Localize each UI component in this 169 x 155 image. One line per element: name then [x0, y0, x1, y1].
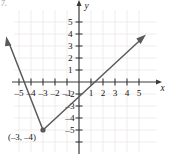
curve-arrowheads: [5, 35, 146, 47]
y-tick-label: –4: [64, 113, 75, 123]
y-tick-labels: 5 4 3 2 1 –2 –3 –4 –5: [64, 17, 75, 135]
x-tick-label: 1: [89, 88, 94, 98]
y-tick-label: –2: [64, 89, 75, 99]
y-axis-label: y: [84, 1, 90, 11]
y-axis-arrow: [77, 0, 82, 6]
coordinate-plane-svg: –5 –4 –3 –2 –1 1 2 3 4 5 5 4 3 2 1 –2 –3…: [0, 0, 169, 155]
x-axis-label: x: [160, 83, 166, 93]
x-tick-label: 2: [101, 88, 106, 98]
x-tick-labels: –5 –4 –3 –2 –1 1 2 3 4 5: [13, 88, 141, 98]
y-tick-label: 3: [68, 41, 73, 51]
axis-arrowheads: [77, 0, 163, 85]
problem-number-label: 7.: [1, 0, 7, 8]
y-tick-label: 4: [68, 29, 73, 39]
x-tick-label: 4: [125, 88, 130, 98]
x-tick-label: –3: [37, 88, 48, 98]
x-tick-label: 5: [137, 88, 142, 98]
graph-figure: 7.: [0, 0, 169, 155]
y-tick-label: –5: [64, 125, 75, 135]
x-tick-label: –5: [13, 88, 24, 98]
y-tick-label: 1: [68, 65, 73, 75]
vertex-point-marker: [40, 127, 45, 132]
left-ray-arrowhead: [5, 36, 11, 46]
y-tick-label: 5: [68, 17, 73, 27]
absolute-value-curve: [10, 38, 143, 130]
curve-right-ray: [43, 38, 143, 130]
x-tick-label: 3: [113, 88, 118, 98]
y-tick-label: 2: [68, 53, 73, 63]
vertex-coordinate-label: (–3, –4): [8, 132, 36, 142]
x-tick-label: –2: [49, 88, 60, 98]
